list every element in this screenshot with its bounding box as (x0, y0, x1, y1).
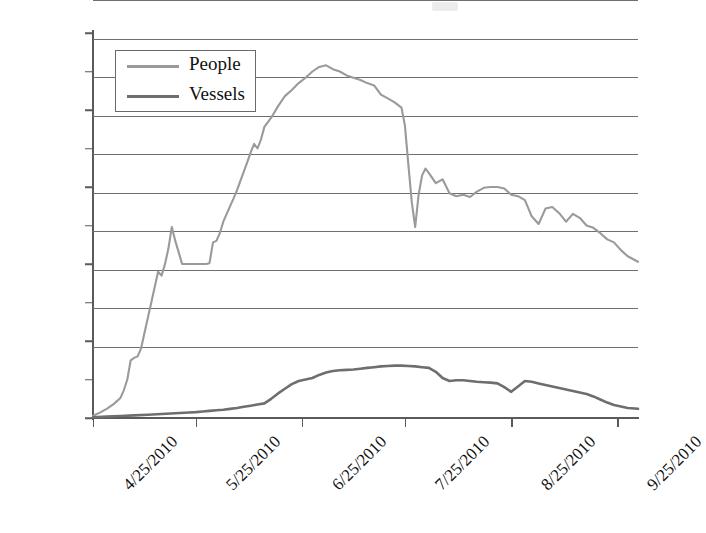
legend-swatch-people (127, 65, 179, 68)
legend-label-vessels: Vessels (189, 83, 245, 105)
series-line-vessels (93, 366, 638, 418)
legend-swatch-vessels (127, 95, 179, 98)
legend-entry-vessels: Vessels (116, 81, 255, 111)
chart-legend: People Vessels (115, 50, 256, 112)
legend-entry-people: People (116, 51, 255, 81)
series-line-people (93, 65, 638, 415)
legend-label-people: People (189, 53, 241, 75)
